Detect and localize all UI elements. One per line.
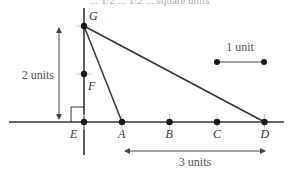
vertical-dimension-label: 2 units (22, 68, 55, 82)
point-label-F: F (87, 79, 96, 93)
point-F (81, 71, 87, 77)
point-label-C: C (213, 127, 222, 141)
point-label-E: E (69, 127, 78, 141)
scale-endpoint-left (214, 59, 220, 65)
point-label-D: D (260, 127, 270, 141)
point-A (119, 119, 125, 125)
point-G (81, 23, 87, 29)
point-B (166, 119, 172, 125)
horizontal-dimension-label: 3 units (179, 155, 212, 169)
point-label-G: G (89, 9, 98, 23)
point-D (261, 119, 267, 125)
point-E (81, 119, 87, 125)
header-fragment: ... 1/2 ... 1/2 ... square units (90, 0, 209, 6)
geometry-diagram: ... 1/2 ... 1/2 ... square units GFEABCD… (0, 0, 292, 178)
scale-endpoint-right (261, 59, 267, 65)
point-label-A: A (117, 127, 126, 141)
point-label-B: B (166, 127, 174, 141)
scale-label: 1 unit (226, 40, 254, 54)
point-C (214, 119, 220, 125)
